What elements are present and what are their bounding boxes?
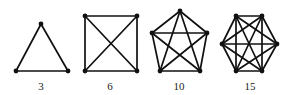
- graph-k4: [83, 14, 140, 74]
- graph-k5: [150, 9, 210, 74]
- vertex: [83, 69, 88, 74]
- vertex: [260, 14, 265, 19]
- complete-graphs-figure: 3 6 10 15: [0, 0, 290, 95]
- vertex: [66, 69, 71, 74]
- vertex: [14, 69, 19, 74]
- graph-k6: [220, 14, 280, 74]
- vertex: [205, 31, 210, 36]
- vertex: [39, 22, 44, 27]
- vertex: [150, 31, 155, 36]
- vertex: [234, 69, 239, 74]
- vertex: [135, 69, 140, 74]
- edge: [41, 24, 68, 71]
- graph-k3: [14, 22, 71, 74]
- vertex: [198, 69, 203, 74]
- vertex: [135, 14, 140, 19]
- vertex: [275, 42, 280, 47]
- vertex: [178, 9, 183, 14]
- edge-count-label-k6: 15: [245, 80, 257, 92]
- vertex: [260, 69, 265, 74]
- vertex: [234, 14, 239, 19]
- edge: [16, 24, 41, 71]
- edge-count-label-k3: 3: [38, 80, 44, 92]
- edge-count-label-k4: 6: [107, 80, 113, 92]
- vertex: [83, 14, 88, 19]
- vertex: [158, 69, 163, 74]
- edge-count-label-k5: 10: [174, 80, 186, 92]
- vertex: [220, 42, 225, 47]
